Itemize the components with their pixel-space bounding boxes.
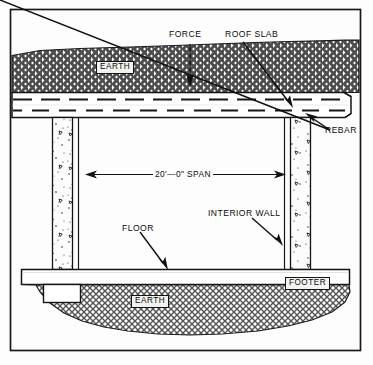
footer-left <box>44 285 81 303</box>
label-footer: FOOTER <box>285 277 330 290</box>
label-rebar: REBAR <box>325 126 357 135</box>
diagram-svg <box>0 0 373 365</box>
label-interior-wall: INTERIOR WALL <box>208 209 280 218</box>
label-span: 20'—0" SPAN <box>153 170 213 178</box>
label-earth-top: EARTH <box>96 61 134 74</box>
diagram-canvas: FORCE ROOF SLAB REBAR EARTH 20'—0" SPAN … <box>0 0 373 365</box>
label-roof-slab: ROOF SLAB <box>225 30 278 39</box>
label-force: FORCE <box>169 30 201 39</box>
label-floor: FLOOR <box>122 224 154 233</box>
label-earth-bottom: EARTH <box>131 295 169 308</box>
